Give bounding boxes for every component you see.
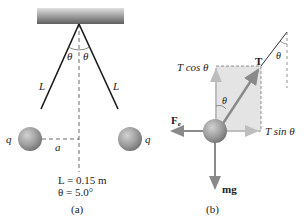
theta-right-label: θ [83, 50, 89, 62]
panel-b: θ θ T T cos θ T sin θ Fe mg (b) [171, 32, 295, 216]
charge-right-label: q [145, 133, 151, 145]
tension-label: T [255, 55, 263, 67]
string-angle-arc [280, 41, 287, 44]
string-left [41, 24, 79, 109]
t-sin-label: T sin θ [265, 125, 295, 137]
sphere-left [18, 127, 42, 151]
length-right-label: L [112, 80, 119, 92]
string-extension [261, 32, 287, 66]
length-left-label: L [38, 80, 45, 92]
t-cos-label: T cos θ [177, 61, 209, 73]
charge-left-label: q [6, 133, 12, 145]
electric-force-label: Fe [171, 114, 181, 128]
sphere [203, 119, 227, 143]
separation-label: a [55, 141, 61, 153]
caption-a: (a) [71, 203, 84, 216]
theta-left-label: θ [67, 50, 73, 62]
theta-string-label: θ [276, 50, 281, 61]
theta-inner-label: θ [222, 95, 227, 106]
ceiling [37, 8, 124, 24]
string-right [79, 24, 118, 109]
sphere-right [118, 127, 142, 151]
panel-a: θ θ L L q q a L = 0.15 m θ = 5.0° (a) [6, 8, 151, 216]
weight-label: mg [222, 183, 237, 195]
caption-b: (b) [206, 203, 219, 216]
given-angle: θ = 5.0° [58, 186, 93, 198]
given-length: L = 0.15 m [58, 174, 107, 186]
diagram-canvas: θ θ L L q q a L = 0.15 m θ = 5.0° (a) θ … [0, 0, 304, 218]
